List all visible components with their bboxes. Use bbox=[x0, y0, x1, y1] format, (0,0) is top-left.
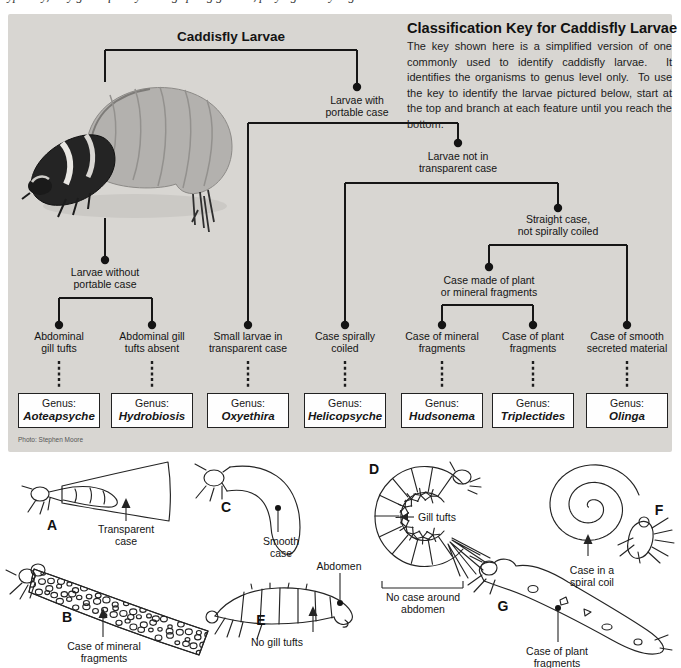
leaf-mineral-fragments: Case of mineralfragments bbox=[405, 331, 479, 354]
figure-c-letter: C bbox=[221, 499, 231, 515]
figure-f-letter: F bbox=[655, 502, 664, 518]
caption-gill-tufts: Gill tufts bbox=[418, 511, 456, 523]
node-with-portable-case: Larvae with portable case bbox=[325, 95, 388, 118]
figure-d-art bbox=[375, 462, 490, 588]
caption-transparent-case: Transparentcase bbox=[98, 523, 154, 547]
node-without-portable-case: Larvae without portable case bbox=[71, 267, 139, 290]
photo-credit: Photo: Stephen Moore bbox=[18, 436, 83, 443]
node-straight-case: Straight case, not spirally coiled bbox=[518, 214, 599, 237]
figure-a-letter: A bbox=[47, 517, 57, 533]
caption-abdomen: Abdomen bbox=[317, 560, 362, 572]
figure-g-letter: G bbox=[498, 598, 509, 614]
figure-d-letter: D bbox=[369, 461, 379, 477]
leaf-smooth-secreted: Case of smoothsecreted material bbox=[587, 331, 668, 354]
genus-box-helicopsyche: Genus:Helicopsyche bbox=[304, 393, 386, 428]
genus-box-olinga: Genus:Olinga bbox=[586, 393, 668, 428]
intro-text: The key shown here is a simplified versi… bbox=[407, 39, 672, 132]
figure-e-letter: E bbox=[256, 612, 265, 628]
caption-no-case-around-abdomen: No case aroundabdomen bbox=[386, 591, 460, 615]
leaf-gill-tufts-absent: Abdominal gilltufts absent bbox=[119, 331, 184, 354]
leaf-plant-fragments: Case of plantfragments bbox=[502, 331, 564, 354]
figure-b-letter: B bbox=[62, 609, 72, 625]
page-title: Classification Key for Caddisfly Larvae bbox=[407, 20, 677, 36]
genus-box-hudsonema: Genus:Hudsonema bbox=[401, 393, 483, 428]
dotted-connectors bbox=[59, 361, 627, 387]
genus-box-oxyethira: Genus:Oxyethira bbox=[207, 393, 289, 428]
genus-box-hydrobiosis: Genus:Hydrobiosis bbox=[111, 393, 193, 428]
caption-no-gill-tufts: No gill tufts bbox=[251, 636, 303, 648]
larva-photo bbox=[22, 82, 232, 232]
caption-plant-fragments: Case of plantfragments bbox=[526, 645, 588, 668]
node-root: Caddisfly Larvae bbox=[177, 31, 285, 43]
figure-a-art bbox=[22, 462, 170, 521]
genus-box-triplectides: Genus:Triplectides bbox=[492, 393, 574, 428]
leaf-spirally-coiled: Case spirallycoiled bbox=[315, 331, 375, 354]
caption-spiral-coil: Case in aspiral coil bbox=[570, 564, 614, 588]
page: typically, they grow quickly among sprin… bbox=[0, 0, 681, 668]
caption-smooth-case: Smoothcase bbox=[263, 535, 299, 559]
genus-box-aoteapsyche: Genus:Aoteapsyche bbox=[18, 393, 100, 428]
node-root-label: Caddisfly Larvae bbox=[177, 29, 285, 44]
leaf-small-transparent: Small larvae intransparent case bbox=[209, 331, 287, 354]
node-not-in-transparent-case: Larvae not in transparent case bbox=[419, 151, 497, 174]
figure-e-art bbox=[206, 573, 352, 639]
leaf-abdominal-gill-tufts: Abdominalgill tufts bbox=[34, 331, 84, 354]
caption-mineral-fragments: Case of mineralfragments bbox=[67, 640, 141, 664]
node-plant-or-mineral: Case made of plant or mineral fragments bbox=[441, 275, 537, 298]
